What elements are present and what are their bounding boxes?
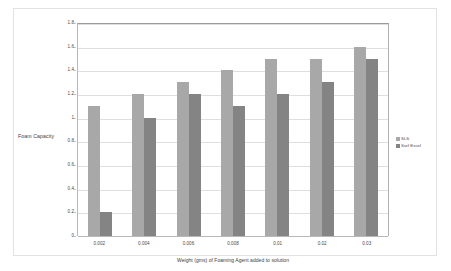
- x-tick-label: 0.008: [211, 237, 256, 249]
- x-axis-title: Weight (gms) of Foaming Agent added to s…: [77, 257, 389, 263]
- bar-group: [344, 24, 388, 236]
- y-tick-mark: [74, 165, 76, 166]
- bar-group: [299, 24, 343, 236]
- legend-item-surf-excel[interactable]: Surf Excel: [396, 144, 444, 148]
- bar-surf-excel-0.002[interactable]: [100, 212, 112, 236]
- y-axis-title: Foam Capacity: [18, 133, 54, 139]
- y-tick-mark: [74, 212, 76, 213]
- bar-group: [167, 24, 211, 236]
- x-tick-label: 0.002: [77, 237, 122, 249]
- y-tick-mark: [74, 236, 76, 237]
- chart-legend: SLSSurf Excel: [396, 137, 444, 151]
- bar-surf-excel-0.01[interactable]: [277, 94, 289, 236]
- bar-group: [255, 24, 299, 236]
- x-tick-label: 0.03: [344, 237, 389, 249]
- y-tick-mark: [74, 141, 76, 142]
- y-tick-mark: [74, 118, 76, 119]
- x-axis: 0.0020.0040.0060.0080.010.020.03: [77, 237, 389, 249]
- y-tick-mark: [74, 189, 76, 190]
- bar-sls-0.008[interactable]: [221, 70, 233, 236]
- bar-sls-0.004[interactable]: [132, 94, 144, 236]
- x-tick-label: 0.004: [122, 237, 167, 249]
- legend-swatch-icon: [396, 144, 400, 148]
- bar-surf-excel-0.02[interactable]: [322, 82, 334, 236]
- bar-sls-0.03[interactable]: [354, 47, 366, 236]
- y-axis: 00.20.40.60.811.21.41.61.8: [52, 23, 76, 236]
- bar-group: [211, 24, 255, 236]
- plot-area: [77, 23, 389, 236]
- x-tick-label: 0.02: [300, 237, 345, 249]
- bar-surf-excel-0.004[interactable]: [144, 118, 156, 236]
- bar-group: [78, 24, 122, 236]
- x-tick-label: 0.006: [166, 237, 211, 249]
- y-tick-mark: [74, 23, 76, 24]
- x-tick-label: 0.01: [255, 237, 300, 249]
- bar-sls-0.002[interactable]: [88, 106, 100, 236]
- legend-label: Surf Excel: [401, 144, 421, 148]
- bar-surf-excel-0.006[interactable]: [189, 94, 201, 236]
- y-tick-mark: [74, 47, 76, 48]
- legend-item-sls[interactable]: SLS: [396, 137, 444, 141]
- bar-group: [122, 24, 166, 236]
- bar-sls-0.02[interactable]: [310, 59, 322, 237]
- y-tick-mark: [74, 94, 76, 95]
- bar-surf-excel-0.03[interactable]: [366, 59, 378, 237]
- bar-sls-0.006[interactable]: [177, 82, 189, 236]
- bar-surf-excel-0.008[interactable]: [233, 106, 245, 236]
- chart-frame: Foam Capacity 00.20.40.60.811.21.41.61.8…: [13, 8, 437, 256]
- legend-label: SLS: [401, 137, 409, 141]
- bar-sls-0.01[interactable]: [265, 59, 277, 237]
- bars-layer: [78, 24, 388, 236]
- y-tick-mark: [74, 70, 76, 71]
- legend-swatch-icon: [396, 137, 400, 141]
